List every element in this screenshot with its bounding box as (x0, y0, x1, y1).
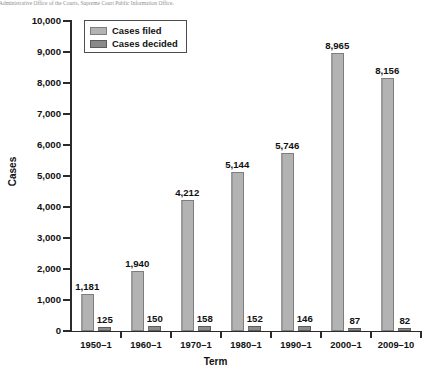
bar-cases-filed (331, 53, 344, 331)
x-axis-category-label: 1990–1 (271, 339, 321, 350)
bar-value-label: 82 (389, 315, 420, 326)
y-axis-tick-label: 10,000 (5, 16, 61, 26)
bar-value-label: 158 (189, 313, 220, 324)
bar-cases-decided (398, 328, 411, 331)
y-axis-tick (63, 144, 70, 145)
y-axis-tick-label: 7,000 (5, 109, 61, 119)
y-axis-tick-label: 1,000 (5, 295, 61, 305)
y-axis-tick (63, 330, 70, 331)
x-axis-tick (420, 331, 421, 338)
bar-cases-filed (281, 153, 294, 331)
bar-value-label: 5,746 (270, 140, 305, 151)
y-axis-tick (63, 175, 70, 176)
x-axis-title: Term (0, 356, 431, 367)
bar-value-label: 1,940 (120, 258, 155, 269)
bar-cases-decided (98, 327, 111, 331)
x-axis-category-label: 2000–1 (321, 339, 371, 350)
y-axis-tick-label: 0 (5, 326, 61, 336)
bar-value-label: 87 (339, 315, 370, 326)
y-axis-tick-label: 3,000 (5, 233, 61, 243)
x-axis-tick (170, 331, 171, 338)
y-axis-tick-label: 2,000 (5, 264, 61, 274)
bar-value-label: 8,156 (370, 65, 405, 76)
bar-value-label: 1,181 (70, 281, 105, 292)
legend-item-label: Cases decided (112, 38, 178, 49)
y-axis-tick (63, 268, 70, 269)
legend-item-cases-filed: Cases filed (90, 24, 181, 37)
y-axis-tick-label: 8,000 (5, 78, 61, 88)
bar-value-label: 5,144 (220, 159, 255, 170)
x-axis-category-label: 1950–1 (71, 339, 121, 350)
bar-value-label: 125 (89, 314, 120, 325)
bar-value-label: 146 (289, 313, 320, 324)
y-axis-tick (63, 299, 70, 300)
y-axis-tick-label: 4,000 (5, 202, 61, 212)
y-axis-title: Cases (7, 142, 18, 202)
y-axis-tick (63, 113, 70, 114)
x-axis-tick (220, 331, 221, 338)
x-axis-category-label: 1970–1 (171, 339, 221, 350)
bar-cases-decided (248, 326, 261, 331)
bar-chart: 01,0002,0003,0004,0005,0006,0007,0008,00… (0, 0, 431, 373)
square-swatch-icon (90, 40, 107, 48)
x-axis-category-label: 1980–1 (221, 339, 271, 350)
bar-value-label: 8,965 (320, 40, 355, 51)
x-axis-tick (320, 331, 321, 338)
square-swatch-icon (90, 27, 107, 35)
chart-legend: Cases filed Cases decided (84, 20, 187, 53)
y-axis-tick (63, 20, 70, 21)
bar-cases-decided (198, 326, 211, 331)
y-axis-tick (63, 51, 70, 52)
y-axis-tick (63, 82, 70, 83)
legend-item-cases-decided: Cases decided (90, 37, 181, 50)
bar-cases-decided (298, 326, 311, 331)
bar-cases-filed (81, 294, 94, 331)
bar-value-label: 152 (239, 313, 270, 324)
bar-cases-decided (348, 328, 361, 331)
y-axis-tick (63, 206, 70, 207)
x-axis-tick (120, 331, 121, 338)
bar-cases-filed (381, 78, 394, 331)
bar-cases-filed (231, 172, 244, 331)
x-axis-category-label: 2009–10 (371, 339, 421, 350)
bar-cases-filed (181, 200, 194, 331)
legend-item-label: Cases filed (112, 25, 162, 36)
y-axis-tick-label: 9,000 (5, 47, 61, 57)
x-axis-tick (370, 331, 371, 338)
x-axis-category-label: 1960–1 (121, 339, 171, 350)
bar-value-label: 4,212 (170, 187, 205, 198)
bar-cases-decided (148, 326, 161, 331)
bar-value-label: 150 (139, 313, 170, 324)
y-axis-tick (63, 237, 70, 238)
x-axis-tick (270, 331, 271, 338)
plot-area: 1,1811251,9401504,2121585,1441525,746146… (71, 21, 421, 331)
